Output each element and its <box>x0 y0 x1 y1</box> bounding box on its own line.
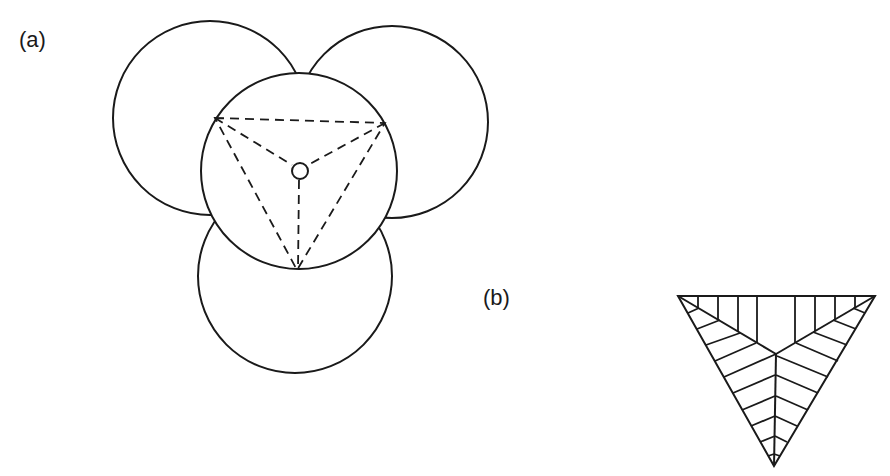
median-left <box>678 296 776 354</box>
median-bottom <box>774 354 776 466</box>
figure-canvas <box>0 0 890 476</box>
panel-a-diagram <box>113 21 488 373</box>
hatching-top-region <box>698 296 855 343</box>
outer-circle-top-left <box>113 21 307 215</box>
central-circle <box>201 73 397 269</box>
median-right <box>776 296 875 354</box>
center-small-circle <box>292 163 308 179</box>
dashed-spoke-bottom <box>298 180 299 270</box>
hatching-left-region <box>688 308 776 456</box>
hatching-right-region <box>774 308 865 456</box>
outer-circle-bottom <box>198 179 392 373</box>
dashed-spoke-right <box>308 123 385 165</box>
dashed-spoke-left <box>215 118 292 165</box>
panel-b-diagram <box>678 296 875 466</box>
